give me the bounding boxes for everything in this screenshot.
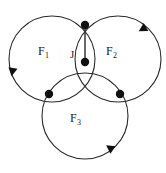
diagram-svg [0, 0, 166, 173]
junction-label: J [70, 49, 74, 60]
diagram-canvas: F1 F2 F3 J [0, 0, 166, 173]
arrow-f2-icon [136, 23, 148, 35]
face-label-f2-subscript: 2 [113, 51, 117, 60]
face-label-f1-subscript: 1 [45, 51, 49, 60]
node-top [81, 21, 89, 29]
face-label-f3-subscript: 3 [77, 118, 81, 127]
face-label-f1: F1 [38, 45, 49, 60]
face-label-f2-text: F [106, 44, 113, 58]
face-label-f2: F2 [106, 45, 117, 60]
face-label-f1-text: F [38, 44, 45, 58]
node-right [116, 90, 124, 98]
face-label-f3-text: F [70, 111, 77, 125]
node-center [81, 58, 89, 66]
node-left [45, 90, 53, 98]
face-label-f3: F3 [70, 112, 81, 127]
arrow-f3-icon [103, 141, 115, 153]
